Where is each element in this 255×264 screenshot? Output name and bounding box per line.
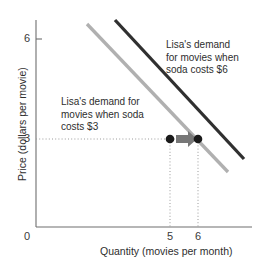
x-tick-label-5: 5 — [167, 230, 173, 242]
annotation-soda-3-line-1: Lisa's demand for — [61, 96, 144, 109]
annotation-soda-6-line-1: Lisa's demand — [166, 39, 239, 52]
annotation-soda-costs-6: Lisa's demand for movies when soda costs… — [166, 39, 239, 77]
annotation-soda-6-line-3: soda costs $6 — [166, 64, 239, 77]
x-tick-label-6: 6 — [195, 230, 201, 242]
annotation-soda-6-line-2: for movies when — [166, 52, 239, 65]
annotation-soda-3-line-3: costs $3 — [61, 121, 144, 134]
y-tick-label-6: 6 — [24, 32, 30, 44]
x-axis-title: Quantity (movies per month) — [100, 245, 232, 257]
origin-label-0: 0 — [24, 230, 30, 242]
point-quantity-6-price-3 — [194, 135, 203, 144]
point-quantity-5-price-3 — [166, 135, 175, 144]
annotation-soda-costs-3: Lisa's demand for movies when soda costs… — [61, 96, 144, 134]
y-axis-title: Price (dollars per movie) — [16, 67, 28, 181]
demand-curve-chart: 6 3 0 5 6 Price (dollars per movie) Quan… — [0, 0, 255, 264]
annotation-soda-3-line-2: movies when soda — [61, 109, 144, 122]
